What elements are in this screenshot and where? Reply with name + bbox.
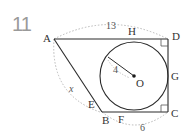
- label-F: F: [118, 113, 124, 125]
- label-C: C: [171, 107, 178, 119]
- arc-BC-measure: [102, 112, 168, 125]
- label-H: H: [128, 25, 136, 37]
- radius-measure-arc: [108, 60, 130, 78]
- right-angle-C-icon: [161, 105, 168, 112]
- label-E: E: [88, 98, 95, 110]
- label-O: O: [136, 77, 144, 89]
- measure-radius: 4: [113, 64, 118, 75]
- label-B: B: [102, 114, 109, 126]
- measure-BC: 6: [140, 122, 145, 133]
- radius-line: [108, 57, 134, 76]
- geometry-figure: A H D G C O E B F 13 6 x 4: [0, 0, 193, 135]
- label-G: G: [171, 70, 179, 82]
- measure-AB: x: [68, 83, 74, 94]
- measure-AD: 13: [106, 20, 116, 31]
- right-angle-D-icon: [161, 39, 168, 46]
- label-A: A: [43, 32, 51, 44]
- label-D: D: [172, 30, 180, 42]
